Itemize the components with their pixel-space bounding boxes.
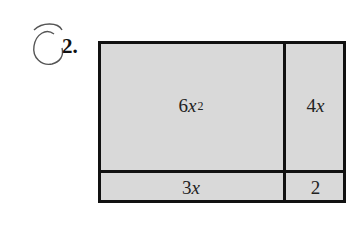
- var: x: [188, 95, 196, 117]
- coef: 6: [179, 95, 189, 117]
- exponent: 2: [197, 99, 203, 114]
- cell-bottom-left: 3x: [98, 172, 284, 203]
- problem-number: 2.: [28, 20, 78, 70]
- horizontal-divider: [98, 170, 346, 173]
- var: x: [316, 95, 324, 117]
- coef: 3: [182, 177, 192, 199]
- problem-number-label: 2.: [62, 34, 78, 59]
- cell-top-left: 6x2: [98, 41, 284, 171]
- area-model-diagram: 6x2 4x 3x 2: [98, 41, 346, 203]
- vertical-divider: [283, 41, 286, 203]
- coef: 2: [311, 177, 321, 199]
- cell-bottom-right: 2: [285, 172, 346, 203]
- var: x: [192, 177, 200, 199]
- cell-top-right: 4x: [285, 41, 346, 171]
- coef: 4: [307, 95, 317, 117]
